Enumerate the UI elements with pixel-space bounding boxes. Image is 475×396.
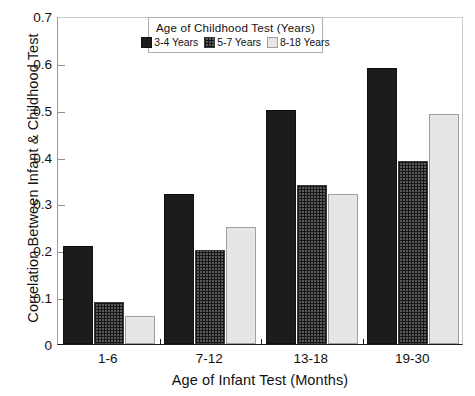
bar: [266, 110, 296, 344]
bar: [328, 194, 358, 344]
bar: [195, 250, 225, 344]
bar: [297, 185, 327, 344]
legend-item: 8-18 Years: [267, 37, 330, 48]
y-tick-label: 0.5: [12, 105, 52, 119]
legend-swatch-icon: [267, 37, 278, 48]
y-tick-label: 0.6: [12, 58, 52, 72]
x-tick-label: 19-30: [395, 351, 430, 366]
x-axis-title: Age of Infant Test (Months): [57, 372, 463, 388]
y-tick-label: 0.1: [12, 292, 52, 306]
bar-chart: Correlation Between Infant & Childhood T…: [0, 0, 475, 396]
bar: [367, 68, 397, 344]
legend-label: 5-7 Years: [217, 37, 261, 48]
legend-label: 8-18 Years: [280, 37, 330, 48]
x-tick-mark: [261, 339, 262, 345]
legend-swatch-icon: [141, 37, 152, 48]
plot-area: 00.10.20.30.40.50.60.7: [57, 17, 463, 345]
chart-legend: Age of Childhood Test (Years) 3-4 Years5…: [148, 17, 323, 53]
legend-title: Age of Childhood Test (Years): [154, 21, 317, 34]
x-tick-label: 1-6: [98, 351, 118, 366]
y-tick-label: 0.4: [12, 152, 52, 166]
legend-swatch-icon: [204, 37, 215, 48]
legend-item: 5-7 Years: [204, 37, 261, 48]
legend-items: 3-4 Years5-7 Years8-18 Years: [154, 37, 317, 48]
legend-label: 3-4 Years: [154, 37, 198, 48]
y-tick-label: 0: [12, 339, 52, 353]
bar: [125, 316, 155, 344]
y-tick-label: 0.7: [12, 11, 52, 25]
x-tick-mark: [160, 339, 161, 345]
legend-item: 3-4 Years: [141, 37, 198, 48]
bar: [63, 246, 93, 344]
bar: [164, 194, 194, 344]
y-tick-label: 0.3: [12, 199, 52, 213]
x-tick-label: 7-12: [196, 351, 223, 366]
bar: [226, 227, 256, 344]
bar: [94, 302, 124, 344]
bar-series-group: [58, 18, 462, 344]
x-tick-label: 13-18: [293, 351, 328, 366]
x-tick-mark: [363, 339, 364, 345]
y-tick-label: 0.2: [12, 246, 52, 260]
bar: [429, 114, 459, 344]
bar: [398, 161, 428, 344]
